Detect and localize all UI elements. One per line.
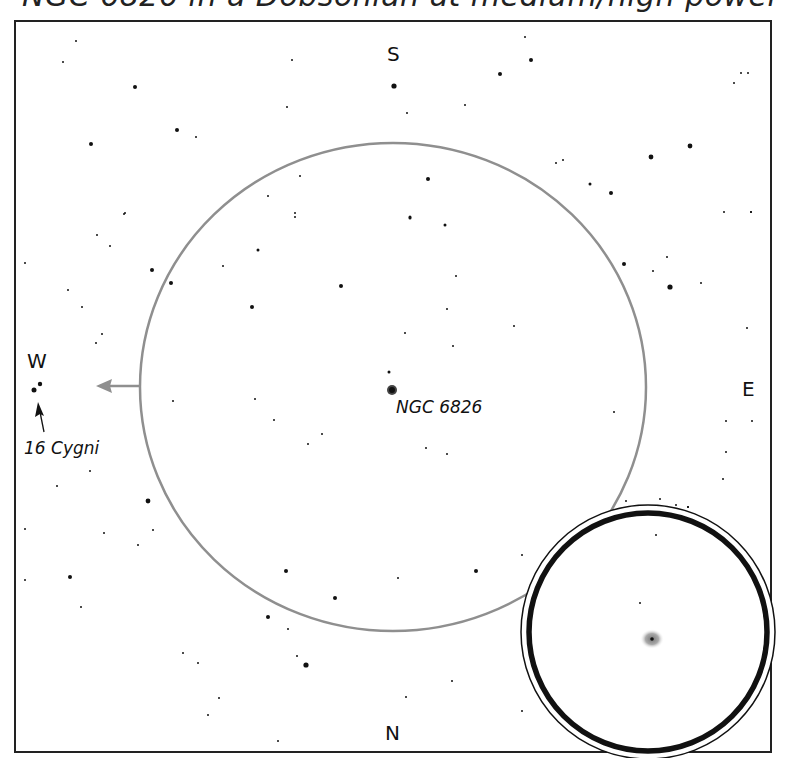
compass-north: N <box>385 721 400 745</box>
pointer-arrow-icon <box>35 402 44 432</box>
ngc-6826-marker <box>387 385 397 395</box>
ngc-6826-label: NGC 6826 <box>396 397 483 417</box>
compass-south: S <box>387 42 400 66</box>
west-arrow-icon <box>96 379 140 393</box>
star-chart: S N W E NGC 6826 16 Cygni <box>0 0 786 758</box>
16-cygni-label: 16 Cygni <box>24 438 100 458</box>
inset-star <box>639 602 641 604</box>
eyepiece-inset <box>521 505 775 758</box>
compass-east: E <box>742 377 755 401</box>
compass-west: W <box>27 349 47 373</box>
16-cygni-double-star <box>32 382 43 393</box>
